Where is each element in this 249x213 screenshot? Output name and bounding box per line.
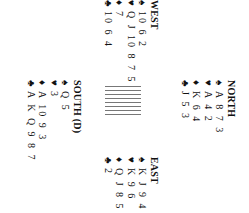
clubs-line: ♣J 5 3 [180,80,192,134]
diamonds-line: ♦7 [114,0,126,84]
hand-title: WEST [149,0,161,84]
spades-line: ♠10 6 2 [137,0,149,84]
club-icon: ♣ [103,0,115,11]
club-icon: ♣ [26,80,38,91]
spades-cards: Q 5 [61,91,72,112]
clubs-cards: J 5 3 [180,91,191,120]
spades-line: ♠A 8 7 3 [214,80,226,134]
club-icon: ♣ [103,157,115,168]
hand-south: SOUTH (D) ♠Q 5 ♥3 ♦A 10 9 3 ♣A K Q 9 8 7 [26,80,84,162]
hand-title: SOUTH (D) [72,80,84,162]
diamond-icon: ♦ [114,157,126,168]
diamonds-line: ♦Q J 8 5 2 [114,157,126,213]
hearts-cards: A 4 2 [203,91,214,123]
clubs-line: ♣2 [103,157,115,213]
spades-cards: A 8 7 3 [215,91,226,134]
clubs-line: ♣10 6 4 [103,0,115,84]
table-compass-box [105,86,141,117]
diamonds-cards: Q J 8 5 2 [115,168,126,213]
clubs-cards: A K Q 9 8 7 [26,91,37,162]
hearts-cards: 3 [49,91,60,98]
diamonds-cards: 7 [115,11,126,18]
heart-icon: ♥ [126,0,138,11]
spades-line: ♠Q 5 [60,80,72,162]
hand-title: EAST [149,157,161,213]
diamond-icon: ♦ [114,0,126,11]
hand-east: EAST ♠K J 9 4 ♥K 9 6 ♦Q J 8 5 2 ♣2 [103,157,161,213]
hand-north: NORTH ♠A 8 7 3 ♥A 4 2 ♦K 6 4 ♣J 5 3 [180,80,238,134]
heart-icon: ♥ [203,80,215,91]
hearts-line: ♥A 4 2 [203,80,215,134]
hearts-line: ♥3 [49,80,61,162]
club-icon: ♣ [180,80,192,91]
diamonds-cards: K 6 4 [192,91,203,123]
hand-title: NORTH [226,80,238,134]
diamond-icon: ♦ [191,80,203,91]
clubs-line: ♣A K Q 9 8 7 [26,80,38,162]
diamonds-line: ♦K 6 4 [191,80,203,134]
bridge-diagram: NORTH ♠A 8 7 3 ♥A 4 2 ♦K 6 4 ♣J 5 3 WEST… [0,0,249,213]
heart-icon: ♥ [49,80,61,91]
heart-icon: ♥ [126,157,138,168]
diamonds-line: ♦A 10 9 3 [37,80,49,162]
spade-icon: ♠ [137,0,149,11]
spades-line: ♠K J 9 4 [137,157,149,213]
hearts-line: ♥Q J 10 8 7 5 [126,0,138,84]
spade-icon: ♠ [60,80,72,91]
clubs-cards: 2 [103,168,114,175]
diamond-icon: ♦ [37,80,49,91]
hearts-cards: K 9 6 [126,168,137,200]
hand-west: WEST ♠10 6 2 ♥Q J 10 8 7 5 ♦7 ♣10 6 4 [103,0,161,84]
spades-cards: 10 6 2 [138,11,149,48]
spades-cards: K J 9 4 [138,168,149,211]
hearts-line: ♥K 9 6 [126,157,138,213]
spade-icon: ♠ [214,80,226,91]
clubs-cards: 10 6 4 [103,11,114,48]
hearts-cards: Q J 10 8 7 5 [126,11,137,84]
diamonds-cards: A 10 9 3 [38,91,49,141]
spade-icon: ♠ [137,157,149,168]
